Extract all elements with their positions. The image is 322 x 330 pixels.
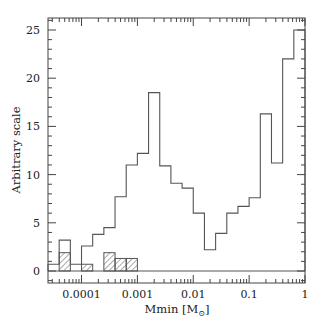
y-tick-label: 10 xyxy=(26,169,40,182)
x-tick-label: 1 xyxy=(302,288,309,301)
open-histogram xyxy=(48,30,305,271)
y-tick-label: 25 xyxy=(26,24,40,37)
open-histogram-outline xyxy=(48,30,305,271)
axes-box xyxy=(48,18,305,283)
x-axis-ticks: 0.00010.0010.010.11 xyxy=(52,18,308,301)
x-tick-label: 0.1 xyxy=(240,288,258,301)
hatched-bar xyxy=(82,264,93,271)
plot-frame xyxy=(48,18,305,283)
y-axis-title: Arbitrary scale xyxy=(9,106,23,194)
y-axis-ticks: 0510152025 xyxy=(26,20,305,280)
histogram-chart: 0.00010.0010.010.11 0510152025 Mmin [M⊙]… xyxy=(0,0,322,330)
x-axis-title: Mmin [M⊙] xyxy=(145,302,210,318)
y-tick-label: 20 xyxy=(26,72,40,85)
y-tick-label: 0 xyxy=(33,265,40,278)
x-tick-label: 0.0001 xyxy=(62,288,101,301)
hatched-bar xyxy=(59,253,70,271)
x-tick-label: 0.01 xyxy=(181,288,206,301)
y-tick-label: 5 xyxy=(33,217,40,230)
hatched-bar xyxy=(104,253,115,271)
y-tick-label: 15 xyxy=(26,120,40,133)
hatched-bar xyxy=(115,258,126,271)
x-tick-label: 0.001 xyxy=(122,288,154,301)
hatched-histogram xyxy=(59,253,137,271)
hatched-bar xyxy=(126,258,137,271)
